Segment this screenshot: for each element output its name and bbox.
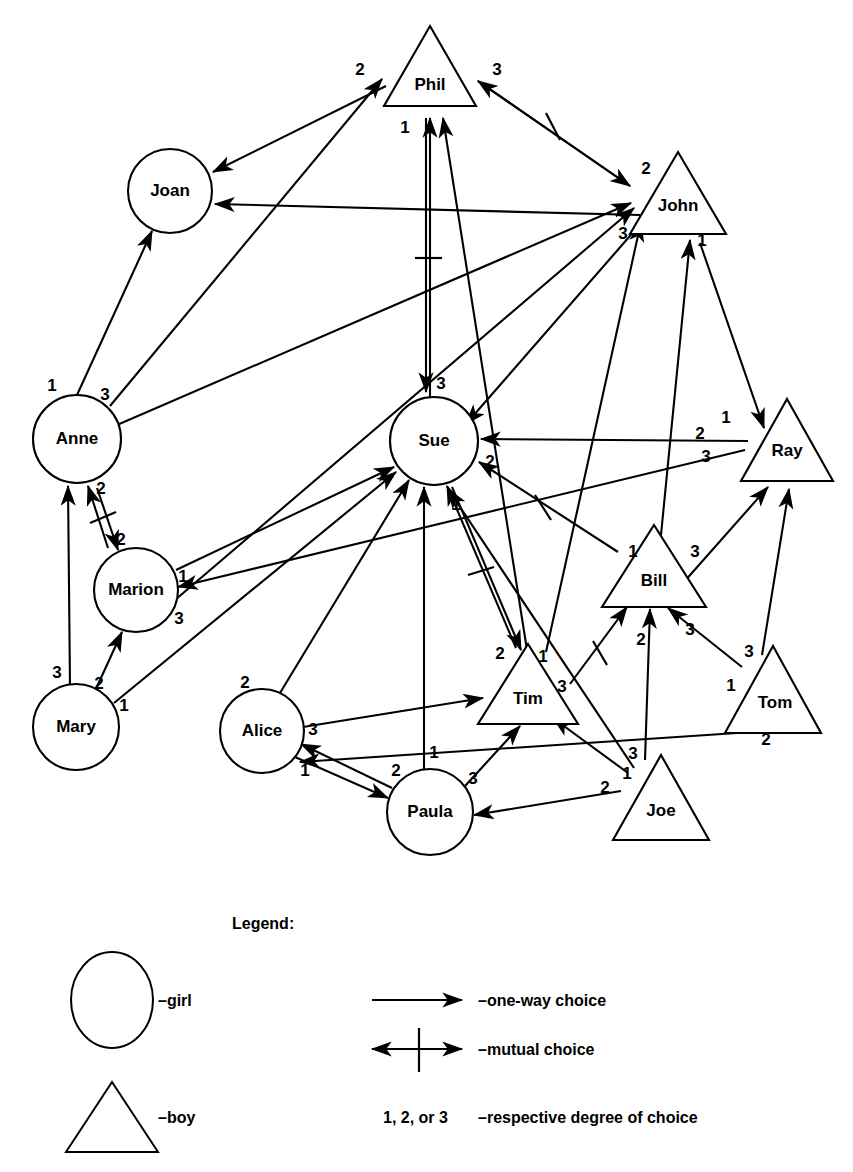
degree-mark: 3 bbox=[618, 224, 627, 243]
edge-marion-sue bbox=[176, 467, 394, 570]
degree-mark: 2 bbox=[600, 778, 609, 797]
node-label-anne: Anne bbox=[56, 429, 99, 448]
legend-boy-label: –boy bbox=[158, 1109, 195, 1126]
degree-mark: 1 bbox=[400, 118, 409, 137]
mutual-tick-phil-john bbox=[546, 113, 560, 140]
degree-mark: 1 bbox=[721, 408, 730, 427]
degree-mark: 2 bbox=[495, 644, 504, 663]
edge-alice-tim bbox=[303, 698, 483, 727]
node-phil[interactable]: Phil bbox=[384, 26, 476, 106]
edge-john-phil bbox=[478, 81, 630, 186]
edge-anne-john bbox=[117, 203, 631, 425]
edge-john-sue bbox=[466, 229, 636, 424]
edge-john-ray bbox=[700, 243, 764, 428]
degree-mark: 2 bbox=[391, 761, 400, 780]
edge-phil-joan bbox=[213, 86, 386, 172]
degree-mark: 2 bbox=[94, 674, 103, 693]
degree-mark: 2 bbox=[240, 673, 249, 692]
degree-mark: 1 bbox=[451, 495, 460, 514]
edge-marion-john bbox=[175, 208, 634, 600]
node-label-tim: Tim bbox=[513, 689, 543, 708]
legend-degrees-desc: –respective degree of choice bbox=[478, 1109, 698, 1126]
edge-mary-anne bbox=[68, 486, 70, 686]
node-label-alice: Alice bbox=[242, 721, 283, 740]
node-label-ray: Ray bbox=[771, 441, 803, 460]
legend: Legend: –girl –boy –one-way choice –mutu… bbox=[66, 915, 698, 1152]
node-label-joan: Joan bbox=[150, 181, 190, 200]
degree-mark: 2 bbox=[636, 630, 645, 649]
legend-mutual-label: –mutual choice bbox=[478, 1041, 595, 1058]
edge-joe-paula bbox=[474, 791, 621, 815]
legend-title: Legend: bbox=[232, 915, 294, 932]
degree-mark: 1 bbox=[178, 567, 187, 586]
node-label-joe: Joe bbox=[646, 801, 675, 820]
degree-mark: 1 bbox=[622, 764, 631, 783]
node-bill[interactable]: Bill bbox=[602, 525, 706, 607]
node-alice[interactable]: Alice bbox=[220, 689, 304, 773]
node-label-john: John bbox=[658, 196, 699, 215]
degree-mark: 2 bbox=[761, 730, 770, 749]
degree-mark: 1 bbox=[119, 696, 128, 715]
degree-mark: 1 bbox=[429, 743, 438, 762]
node-ray[interactable]: Ray bbox=[741, 399, 833, 481]
node-label-marion: Marion bbox=[108, 580, 164, 599]
degree-mark: 3 bbox=[100, 385, 109, 404]
degree-mark: 3 bbox=[701, 447, 710, 466]
edge-ray-sue bbox=[481, 439, 748, 441]
edge-tom-ray bbox=[762, 489, 789, 655]
degree-mark: 3 bbox=[492, 60, 501, 79]
node-label-phil: Phil bbox=[414, 75, 445, 94]
edge-tom-bill bbox=[668, 608, 742, 667]
edge-john-joan bbox=[215, 204, 640, 215]
degree-mark: 3 bbox=[308, 720, 317, 739]
degree-mark: 2 bbox=[116, 530, 125, 549]
degree-mark: 1 bbox=[697, 231, 706, 250]
node-anne[interactable]: Anne bbox=[33, 395, 121, 483]
edge-bill-sue bbox=[479, 462, 618, 552]
degree-mark: 3 bbox=[685, 620, 694, 639]
degree-mark: 1 bbox=[300, 761, 309, 780]
degree-mark: 3 bbox=[468, 769, 477, 788]
degree-mark: 1 bbox=[538, 647, 547, 666]
degree-mark: 1 bbox=[47, 376, 56, 395]
degree-mark: 3 bbox=[52, 663, 61, 682]
mutual-tick-anne-marion bbox=[90, 512, 116, 523]
node-joan[interactable]: Joan bbox=[128, 149, 212, 233]
edge-joe-bill bbox=[645, 609, 650, 760]
node-paula[interactable]: Paula bbox=[387, 769, 473, 855]
degree-mark: 2 bbox=[641, 159, 650, 178]
node-mary[interactable]: Mary bbox=[33, 684, 119, 770]
edge-joe-sue bbox=[448, 489, 634, 768]
degree-mark: 3 bbox=[744, 642, 753, 661]
degree-mark: 3 bbox=[436, 374, 445, 393]
sociogram-diagram: Phil Joan John Anne Sue Ray bbox=[0, 0, 853, 1172]
legend-one-way-label: –one-way choice bbox=[478, 992, 606, 1009]
node-label-bill: Bill bbox=[641, 571, 667, 590]
degree-mark: 2 bbox=[96, 479, 105, 498]
node-marion[interactable]: Marion bbox=[94, 548, 178, 632]
node-label-tom: Tom bbox=[758, 693, 793, 712]
node-label-sue: Sue bbox=[418, 431, 449, 450]
legend-boy-icon bbox=[66, 1082, 158, 1152]
legend-girl-label: –girl bbox=[158, 992, 192, 1009]
degree-mark: 2 bbox=[355, 60, 364, 79]
node-tom[interactable]: Tom bbox=[725, 646, 821, 733]
legend-degrees-value: 1, 2, or 3 bbox=[383, 1109, 448, 1126]
degree-mark: 2 bbox=[485, 452, 494, 471]
edge-tim-bill bbox=[570, 607, 627, 684]
degree-mark: 1 bbox=[726, 676, 735, 695]
degree-mark: 3 bbox=[174, 609, 183, 628]
edge-tom-paula bbox=[300, 733, 737, 762]
node-label-mary: Mary bbox=[56, 717, 96, 736]
edge-anne-phil bbox=[110, 79, 382, 406]
legend-girl-icon bbox=[71, 952, 153, 1048]
degree-mark: 3 bbox=[690, 542, 699, 561]
node-label-paula: Paula bbox=[407, 802, 453, 821]
degree-mark: 2 bbox=[695, 424, 704, 443]
degree-mark: 3 bbox=[628, 744, 637, 763]
edge-bill-john bbox=[660, 240, 690, 545]
node-sue[interactable]: Sue bbox=[390, 397, 478, 485]
degree-mark: 1 bbox=[628, 542, 637, 561]
degree-mark: 3 bbox=[557, 677, 566, 696]
sociogram-canvas: Phil Joan John Anne Sue Ray bbox=[0, 0, 853, 1172]
